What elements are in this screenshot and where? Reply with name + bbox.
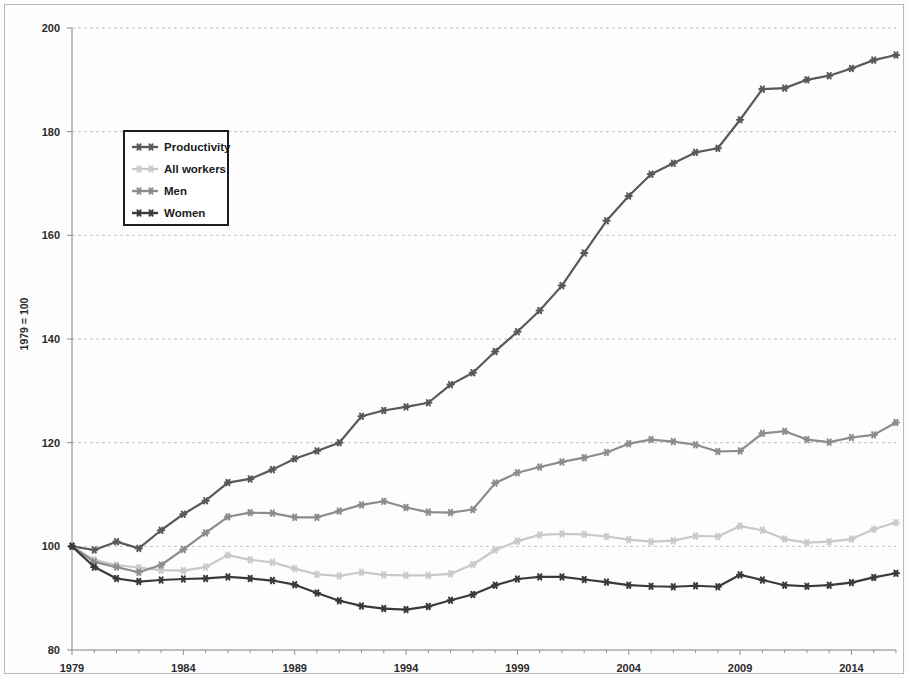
x-tick-label-1984: 1984 (171, 662, 196, 674)
series-0-marker-2004 (626, 193, 632, 198)
series-0-marker-2006 (670, 161, 676, 166)
series-0-marker-2009 (737, 117, 743, 122)
legend-swatch-marker-b-2 (148, 188, 154, 193)
series-2-marker-1984 (180, 547, 186, 552)
series-1-marker-1988 (269, 560, 275, 565)
series-2-marker-1998 (492, 480, 498, 485)
series-2-marker-2014 (848, 435, 854, 440)
series-2-marker-1986 (225, 514, 231, 519)
series-3-marker-1979 (69, 544, 75, 549)
series-3-marker-2012 (804, 584, 810, 589)
series-0-marker-1990 (314, 448, 320, 453)
series-2-marker-2000 (537, 464, 543, 469)
y-tick-label-140: 140 (42, 333, 60, 345)
legend-label-2: Men (164, 185, 187, 197)
series-3-marker-2006 (670, 584, 676, 589)
series-0-marker-2002 (581, 250, 587, 255)
x-tick-label-1979: 1979 (60, 662, 84, 674)
legend-swatch-marker-a-1 (136, 166, 142, 171)
series-1-marker-1984 (180, 568, 186, 573)
series-3-marker-1985 (203, 576, 209, 581)
series-1-marker-1986 (225, 552, 231, 557)
x-tick-label-2004: 2004 (617, 662, 642, 674)
series-3-marker-2009 (737, 572, 743, 577)
series-1-marker-2006 (670, 538, 676, 543)
series-2-marker-2002 (581, 455, 587, 460)
series-2-marker-1988 (269, 510, 275, 515)
series-productivity (69, 52, 899, 552)
series-3-marker-1991 (336, 598, 342, 603)
series-0-marker-2010 (759, 86, 765, 91)
series-0-marker-1994 (403, 404, 409, 409)
series-1-marker-2007 (692, 533, 698, 538)
series-2-marker-1983 (158, 562, 164, 567)
series-1-marker-2004 (626, 537, 632, 542)
series-women (69, 544, 899, 613)
series-1-marker-2012 (804, 540, 810, 545)
series-2-marker-1987 (247, 510, 253, 515)
legend-swatch-marker-a-3 (136, 210, 142, 215)
series-3-marker-2014 (848, 580, 854, 585)
chart-legend[interactable]: ProductivityAll workersMenWomen (124, 131, 231, 225)
series-2-marker-1982 (136, 570, 142, 575)
y-tick-label-160: 160 (42, 229, 60, 241)
series-2-marker-2016 (893, 420, 899, 425)
series-1-marker-2002 (581, 532, 587, 537)
series-0-marker-1987 (247, 476, 253, 481)
series-2-marker-2008 (715, 449, 721, 454)
series-3-marker-1980 (91, 564, 97, 569)
series-0-marker-2011 (782, 85, 788, 90)
series-1-marker-2016 (893, 520, 899, 525)
series-3-marker-2016 (893, 571, 899, 576)
chart-figure: 80100120140160180200 1979198419891994199… (0, 0, 908, 678)
series-3-marker-1987 (247, 576, 253, 581)
series-0-marker-1996 (447, 382, 453, 387)
series-2-marker-2015 (871, 432, 877, 437)
series-2-marker-1989 (292, 515, 298, 520)
series-line-2 (72, 422, 896, 572)
series-1-marker-2001 (559, 531, 565, 536)
series-3-marker-1996 (447, 598, 453, 603)
series-0-marker-2007 (692, 150, 698, 155)
series-2-marker-1997 (470, 507, 476, 512)
series-line-3 (72, 546, 896, 609)
legend-label-1: All workers (164, 163, 226, 175)
series-3-marker-1990 (314, 590, 320, 595)
series-3-marker-1982 (136, 579, 142, 584)
series-0-marker-1998 (492, 349, 498, 354)
series-0-marker-2012 (804, 77, 810, 82)
y-tick-label-120: 120 (42, 437, 60, 449)
series-3-marker-2015 (871, 575, 877, 580)
series-3-marker-1997 (470, 592, 476, 597)
series-1-marker-2003 (603, 534, 609, 539)
series-3-marker-1983 (158, 577, 164, 582)
series-2-marker-1985 (203, 530, 209, 535)
x-tick-label-1989: 1989 (282, 662, 306, 674)
series-2-marker-2011 (782, 429, 788, 434)
series-3-marker-2011 (782, 583, 788, 588)
series-3-marker-1998 (492, 583, 498, 588)
plot-area-wrapper: 80100120140160180200 1979198419891994199… (0, 0, 908, 678)
series-0-marker-2008 (715, 146, 721, 151)
series-3-marker-1999 (514, 576, 520, 581)
series-2-marker-1994 (403, 505, 409, 510)
series-0-marker-1993 (381, 408, 387, 413)
legend-swatch-marker-b-3 (148, 210, 154, 215)
series-3-marker-1988 (269, 578, 275, 583)
series-1-marker-1992 (358, 570, 364, 575)
series-0-marker-2005 (648, 171, 654, 176)
series-1-marker-2005 (648, 539, 654, 544)
y-tick-label-180: 180 (42, 126, 60, 138)
series-0-marker-2016 (893, 52, 899, 57)
series-2-marker-2005 (648, 437, 654, 442)
series-1-marker-1999 (514, 538, 520, 543)
series-2-marker-2004 (626, 441, 632, 446)
legend-label-0: Productivity (164, 141, 231, 153)
series-1-marker-2009 (737, 523, 743, 528)
series-1-marker-2014 (848, 536, 854, 541)
series-0-marker-2001 (559, 283, 565, 288)
series-0-marker-1999 (514, 329, 520, 334)
series-0-marker-1986 (225, 480, 231, 485)
y-axis-title: 1979 = 100 (18, 297, 30, 350)
series-1-marker-1996 (447, 571, 453, 576)
